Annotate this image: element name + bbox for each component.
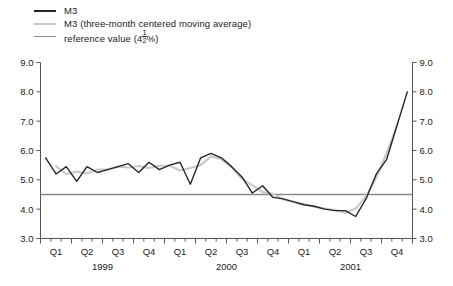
y-tick-label-left-5.0: 5.0 xyxy=(20,174,33,185)
x-axis-quarter-label-8: Q1 xyxy=(298,246,311,257)
x-axis-quarter-label-10: Q3 xyxy=(360,246,373,257)
y-tick-label-right-7.0: 7.0 xyxy=(420,116,433,127)
y-tick-label-right-8.0: 8.0 xyxy=(420,86,433,97)
y-tick-label-right-4.0: 4.0 xyxy=(420,204,433,215)
x-axis-quarter-label-0: Q1 xyxy=(50,246,63,257)
y-tick-label-right-5.0: 5.0 xyxy=(420,174,433,185)
y-tick-label-left-4.0: 4.0 xyxy=(20,204,33,215)
chart-root: M3 M3 (three-month centered moving avera… xyxy=(0,0,453,286)
chart-plot: 3.03.04.04.05.05.06.06.07.07.08.08.09.09… xyxy=(0,0,453,286)
x-axis-quarter-label-4: Q1 xyxy=(174,246,187,257)
x-axis-year-label-2001: 2001 xyxy=(340,261,361,272)
x-axis-quarter-label-1: Q2 xyxy=(81,246,94,257)
y-tick-label-left-8.0: 8.0 xyxy=(20,86,33,97)
y-tick-label-left-3.0: 3.0 xyxy=(20,233,33,244)
y-tick-label-right-9.0: 9.0 xyxy=(420,57,433,68)
y-tick-label-right-6.0: 6.0 xyxy=(420,145,433,156)
x-axis-year-label-1999: 1999 xyxy=(92,261,113,272)
x-axis-quarter-label-2: Q3 xyxy=(112,246,125,257)
x-axis-year-label-2000: 2000 xyxy=(216,261,237,272)
y-tick-label-left-9.0: 9.0 xyxy=(20,57,33,68)
y-tick-label-left-6.0: 6.0 xyxy=(20,145,33,156)
x-axis-quarter-label-3: Q4 xyxy=(143,246,156,257)
x-axis-quarter-label-6: Q3 xyxy=(236,246,249,257)
y-tick-label-left-7.0: 7.0 xyxy=(20,116,33,127)
x-axis-quarter-label-7: Q4 xyxy=(267,246,280,257)
x-axis-quarter-label-5: Q2 xyxy=(205,246,218,257)
y-tick-label-right-3.0: 3.0 xyxy=(420,233,433,244)
series-line-m3 xyxy=(46,92,408,217)
x-axis-quarter-label-9: Q2 xyxy=(329,246,342,257)
x-axis-quarter-label-11: Q4 xyxy=(391,246,404,257)
